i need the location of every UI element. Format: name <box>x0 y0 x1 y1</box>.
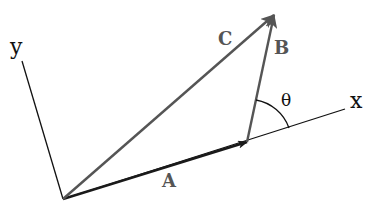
y-axis <box>22 61 63 199</box>
diagram-svg <box>0 0 377 217</box>
vector-b-label: B <box>274 37 289 58</box>
vector-a-arrow <box>63 142 247 199</box>
theta-label: θ <box>281 90 291 110</box>
y-axis-label: y <box>10 34 22 59</box>
vector-a-label: A <box>162 170 176 191</box>
vector-c-label: C <box>218 28 232 49</box>
x-axis-label: x <box>350 88 362 113</box>
vector-diagram: y x A B C θ <box>0 0 377 217</box>
